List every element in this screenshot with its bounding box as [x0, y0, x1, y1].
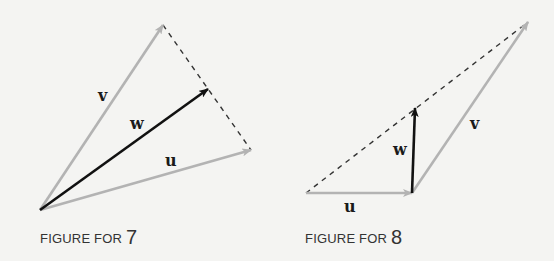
- figure-8-vector-v-arrow: [412, 22, 528, 193]
- figure-8-caption-prefix: FIGURE FOR: [305, 231, 391, 246]
- figure-8-dashed-line: [306, 22, 528, 193]
- figure-7-caption: FIGURE FOR 7: [40, 226, 137, 249]
- figure-7-vector-v-arrow: [40, 25, 163, 210]
- figure-7-vector-w-arrow: [40, 89, 208, 210]
- figure-7-label-u: u: [165, 153, 177, 169]
- figure-8-vector-w-arrow: [412, 108, 415, 193]
- figure-7-label-w: w: [130, 116, 144, 132]
- figure-8-label-u: u: [344, 199, 356, 215]
- figure-8-diagram: [306, 22, 528, 193]
- figure-7-caption-prefix: FIGURE FOR: [40, 231, 126, 246]
- figure-7-diagram: [40, 25, 251, 210]
- figure-7-vector-u-arrow: [40, 150, 251, 210]
- figure-7-dashed-line: [163, 25, 251, 150]
- figure-8-label-v: v: [470, 116, 479, 132]
- figure-8-label-w: w: [393, 142, 407, 158]
- vector-figures-canvas: v w u FIGURE FOR 7 u w v FIGURE FOR 8: [0, 0, 554, 261]
- figure-7-label-v: v: [98, 88, 107, 104]
- figure-8-caption: FIGURE FOR 8: [305, 226, 402, 249]
- figure-7-caption-number: 7: [126, 226, 137, 248]
- figure-8-caption-number: 8: [391, 226, 402, 248]
